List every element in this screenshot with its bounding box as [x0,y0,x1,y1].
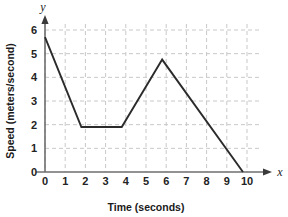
y-tick-label: 4 [31,71,38,83]
y-axis-arrow [41,15,48,24]
x-tick-label: 2 [82,175,88,187]
x-tick-label: 1 [62,175,68,187]
x-tick-label: 3 [103,175,109,187]
x-axis-title: Time (seconds) [108,201,185,213]
x-tick-label: 9 [224,175,230,187]
x-axis-arrow [263,168,272,175]
x-axis-variable-label: x [276,165,283,179]
x-tick-label: 4 [123,175,130,187]
data-series [45,37,243,172]
y-tick-label: 5 [31,48,37,60]
speed-time-chart: yx0123456789100123456Time (seconds)Speed… [0,0,288,217]
x-tick-label: 0 [42,175,48,187]
tick-labels: 0123456789100123456 [31,24,253,187]
y-tick-label: 1 [31,142,37,154]
y-axis-title: Speed (meters/second) [4,43,16,159]
y-tick-label: 0 [31,166,37,178]
y-tick-label: 6 [31,24,37,36]
axes: yx [36,0,283,179]
chart-canvas: yx0123456789100123456Time (seconds)Speed… [0,0,288,217]
x-tick-label: 10 [241,175,253,187]
x-tick-label: 6 [163,175,169,187]
y-axis-variable-label: y [39,0,46,14]
x-tick-label: 5 [143,175,149,187]
x-tick-label: 7 [183,175,189,187]
x-tick-label: 8 [204,175,210,187]
y-tick-label: 2 [31,119,37,131]
y-tick-label: 3 [31,95,37,107]
data-line [45,37,243,172]
